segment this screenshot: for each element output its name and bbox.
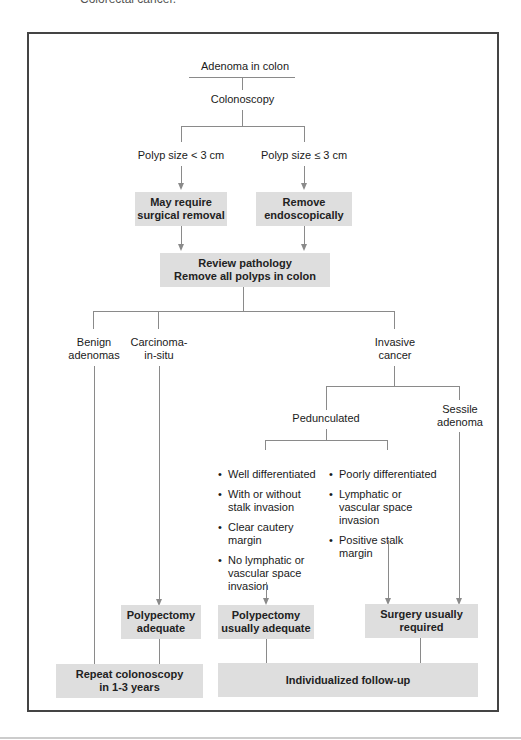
box-line: Repeat colonoscopy xyxy=(76,668,184,681)
box-line: Individualized follow-up xyxy=(286,674,411,687)
page-divider xyxy=(0,737,521,739)
label-line: cancer xyxy=(378,349,411,361)
box-repeat-colonoscopy: Repeat colonoscopy in 1-3 years xyxy=(56,664,203,698)
node-invasive-cancer: Invasive cancer xyxy=(364,336,426,362)
favorable-criteria-list: Well differentiated With or without stal… xyxy=(218,468,328,600)
connector xyxy=(388,540,389,599)
box-line: Surgery usually xyxy=(380,608,463,621)
connector xyxy=(387,440,388,450)
connector xyxy=(243,287,244,311)
connector xyxy=(181,166,182,184)
figure-caption: Colorectal cancer. xyxy=(80,0,176,6)
box-line: in 1-3 years xyxy=(99,681,160,694)
box-individualized-follow-up: Individualized follow-up xyxy=(218,663,478,697)
label-line: Sessile xyxy=(442,403,477,415)
criteria-item: With or without stalk invasion xyxy=(218,488,310,514)
connector xyxy=(93,311,395,312)
arrow-down-icon xyxy=(178,183,184,190)
connector xyxy=(265,440,266,450)
criteria-item: Lymphatic or vascular space invasion xyxy=(329,488,419,527)
node-sessile-adenoma: Sessile adenoma xyxy=(432,403,488,429)
connector xyxy=(326,386,327,410)
box-polypectomy-usually-adequate: Polypectomy usually adequate xyxy=(218,605,314,639)
label-line: adenoma xyxy=(437,416,483,428)
box-line: adequate xyxy=(137,622,185,635)
criteria-item: Clear cautery margin xyxy=(218,521,306,547)
node-benign-adenomas: Benign adenomas xyxy=(63,336,125,362)
connector xyxy=(158,311,159,329)
label-line: Benign xyxy=(77,336,111,348)
box-surgical-removal: May require surgical removal xyxy=(135,192,227,226)
connector xyxy=(304,226,305,245)
label-line: in-situ xyxy=(144,349,173,361)
node-adenoma-in-colon: Adenoma in colon xyxy=(190,60,300,73)
box-line: endoscopically xyxy=(264,209,343,222)
arrow-down-icon xyxy=(178,244,184,251)
connector xyxy=(394,311,395,329)
connector xyxy=(326,429,327,440)
connector xyxy=(181,226,182,245)
arrow-down-icon xyxy=(301,244,307,251)
box-line: Review pathology xyxy=(198,257,292,270)
node-pedunculated: Pedunculated xyxy=(286,412,366,425)
label-line: adenomas xyxy=(68,349,119,361)
criteria-item: Poorly differentiated xyxy=(329,468,439,481)
node-polyp-small: Polyp size < 3 cm xyxy=(131,149,231,162)
box-surgery-usually-required: Surgery usually required xyxy=(365,604,478,638)
box-line: surgical removal xyxy=(137,209,224,222)
connector xyxy=(181,126,182,142)
node-polyp-large: Polyp size ≤ 3 cm xyxy=(254,149,354,162)
label-line: Carcinoma- xyxy=(131,336,188,348)
connector xyxy=(265,440,388,441)
box-polypectomy-adequate: Polypectomy adequate xyxy=(121,605,201,639)
connector xyxy=(242,77,243,90)
connector xyxy=(242,110,243,126)
connector xyxy=(459,386,460,400)
connector xyxy=(304,126,305,142)
connector xyxy=(159,366,160,600)
box-review-pathology: Review pathology Remove all polyps in co… xyxy=(160,253,330,287)
connector xyxy=(394,366,395,386)
connector xyxy=(326,386,460,387)
box-line: Polypectomy xyxy=(232,609,300,622)
box-remove-endoscopically: Remove endoscopically xyxy=(256,192,352,226)
unfavorable-criteria-list: Poorly differentiated Lymphatic or vascu… xyxy=(329,468,439,567)
arrow-down-icon xyxy=(263,598,269,605)
criteria-item: Well differentiated xyxy=(218,468,328,481)
box-line: usually adequate xyxy=(221,622,310,635)
connector xyxy=(181,126,305,127)
connector xyxy=(266,582,267,599)
label-line: Invasive xyxy=(375,336,415,348)
connector xyxy=(94,366,95,675)
node-carcinoma-in-situ: Carcinoma- in-situ xyxy=(128,336,190,362)
node-colonoscopy: Colonoscopy xyxy=(200,93,285,106)
box-line: Remove all polyps in colon xyxy=(174,270,316,283)
box-line: Polypectomy xyxy=(127,609,195,622)
box-line: May require xyxy=(150,196,212,209)
criteria-item: Positive stalk margin xyxy=(329,534,439,560)
connector xyxy=(93,311,94,329)
connector xyxy=(459,432,460,599)
box-line: required xyxy=(399,621,443,634)
arrow-down-icon xyxy=(301,183,307,190)
connector xyxy=(304,166,305,184)
box-line: Remove xyxy=(283,196,326,209)
